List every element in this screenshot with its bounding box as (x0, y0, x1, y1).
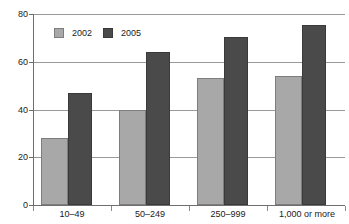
y-tick-label-20: 20 (0, 153, 28, 162)
legend-swatch-2005-icon (103, 28, 113, 38)
x-axis-label-50-249: 50–249 (111, 209, 189, 220)
y-tick-mark-60 (29, 62, 34, 63)
bar-2002-50-249 (119, 110, 146, 206)
y-tick-label-40: 40 (0, 106, 28, 115)
y-tick-label-80: 80 (0, 10, 28, 19)
legend-label-2005: 2005 (121, 28, 141, 38)
bar-2005-1000-or-more (302, 25, 326, 205)
gridline-60 (33, 62, 345, 63)
legend-label-2002: 2002 (72, 28, 92, 38)
y-tick-label-60: 60 (0, 58, 28, 67)
x-axis-label-250-999: 250–999 (189, 209, 267, 220)
y-tick-label-0: 0 (0, 201, 28, 210)
bar-2002-250-999 (197, 78, 224, 205)
gridline-80 (33, 14, 345, 15)
y-tick-mark-80 (29, 14, 34, 15)
plot-area (33, 14, 345, 205)
x-axis-label-1000-or-more: 1,000 or more (267, 209, 347, 220)
y-tick-mark-20 (29, 157, 34, 158)
bar-2005-10-49 (68, 93, 92, 205)
bar-2005-250-999 (224, 37, 248, 205)
y-tick-mark-40 (29, 110, 34, 111)
bar-2002-10-49 (41, 138, 68, 205)
bar-chart: 80 60 40 20 0 10–49 50–249 250–999 1,000… (0, 0, 349, 224)
legend-swatch-2002-icon (54, 28, 64, 38)
x-axis-label-10-49: 10–49 (33, 209, 111, 220)
bar-2005-50-249 (146, 52, 170, 205)
bar-2002-1000-or-more (275, 76, 302, 205)
